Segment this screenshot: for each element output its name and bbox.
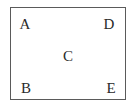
label-b: B [21,81,31,96]
label-e: E [106,81,115,96]
label-c: C [63,49,73,64]
label-a: A [20,17,31,32]
label-d: D [104,17,115,32]
